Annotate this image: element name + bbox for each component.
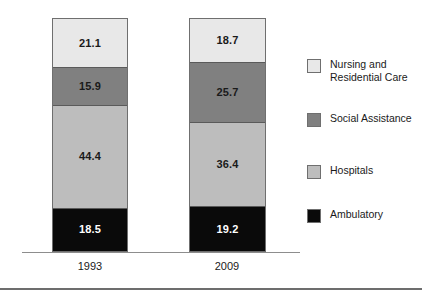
legend-label: Hospitals xyxy=(330,164,373,177)
legend-item-hospitals: Hospitals xyxy=(307,164,373,179)
stacked-bar-chart-figure: 21.1 15.9 44.4 18.5 18.7 25.7 36.4 xyxy=(0,0,422,297)
legend-swatch-icon xyxy=(307,209,321,223)
segment-value-label: 25.7 xyxy=(216,87,238,98)
segment-value-label: 15.9 xyxy=(79,81,101,92)
legend-swatch-icon xyxy=(307,59,321,73)
bar-segment-hospitals: 36.4 xyxy=(190,123,265,207)
stacked-bar-1993: 21.1 15.9 44.4 18.5 xyxy=(52,18,128,252)
legend-item-nursing-and-residential-care: Nursing and Residential Care xyxy=(307,58,408,83)
bar-segment-nursing-and-residential-care: 18.7 xyxy=(190,19,265,63)
legend-item-ambulatory: Ambulatory xyxy=(307,208,383,223)
bar-segment-social-assistance: 15.9 xyxy=(53,68,127,105)
legend-label: Ambulatory xyxy=(330,208,383,221)
stacked-bar-2009: 18.7 25.7 36.4 19.2 xyxy=(189,18,266,252)
legend-label: Nursing and Residential Care xyxy=(330,58,408,83)
segment-value-label: 36.4 xyxy=(216,159,238,170)
bar-segment-hospitals: 44.4 xyxy=(53,106,127,209)
x-axis-line xyxy=(22,252,300,253)
legend-swatch-icon xyxy=(307,165,321,179)
segment-value-label: 18.5 xyxy=(79,224,101,235)
x-axis-tick-label-1993: 1993 xyxy=(30,261,150,272)
legend-label: Social Assistance xyxy=(330,112,412,125)
segment-value-label: 44.4 xyxy=(79,151,101,162)
segment-value-label: 18.7 xyxy=(216,35,238,46)
bar-segment-ambulatory: 19.2 xyxy=(190,207,265,251)
bar-segment-ambulatory: 18.5 xyxy=(53,209,127,251)
legend-swatch-icon xyxy=(307,113,321,127)
segment-value-label: 21.1 xyxy=(79,38,101,49)
footer-divider xyxy=(0,288,422,290)
legend-item-social-assistance: Social Assistance xyxy=(307,112,412,127)
plot-area: 21.1 15.9 44.4 18.5 18.7 25.7 36.4 xyxy=(0,0,310,260)
segment-value-label: 19.2 xyxy=(216,224,238,235)
x-axis-tick-label-2009: 2009 xyxy=(167,261,287,272)
bar-segment-social-assistance: 25.7 xyxy=(190,63,265,123)
bar-segment-nursing-and-residential-care: 21.1 xyxy=(53,19,127,68)
